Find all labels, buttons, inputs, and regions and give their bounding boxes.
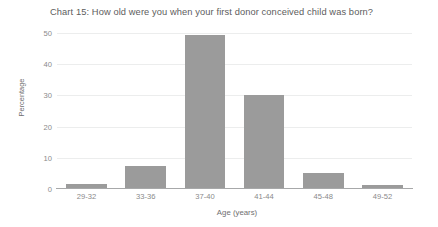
- gridline: [57, 33, 412, 34]
- page-title: Chart 15: How old were you when your fir…: [50, 7, 410, 17]
- bar: [303, 173, 344, 189]
- x-axis-tick: 37-40: [175, 192, 234, 201]
- y-axis-title: Percentage: [17, 68, 26, 128]
- bar: [244, 95, 285, 189]
- gridline: [57, 158, 412, 159]
- y-axis-tick-labels: 01020304050: [30, 0, 52, 227]
- x-axis-tick: 45-48: [294, 192, 353, 201]
- y-axis-tick: 30: [44, 91, 52, 100]
- gridline: [57, 127, 412, 128]
- gridline: [57, 95, 412, 96]
- y-axis-tick: 40: [44, 60, 52, 69]
- x-axis-tick: 33-36: [116, 192, 175, 201]
- x-axis-tick: 29-32: [57, 192, 116, 201]
- bar: [125, 166, 166, 189]
- x-axis-tick: 41-44: [235, 192, 294, 201]
- y-axis-tick: 50: [44, 29, 52, 38]
- x-axis-tick: 49-52: [353, 192, 412, 201]
- x-axis-line: [56, 188, 413, 189]
- chart-screenshot: Chart 15: How old were you when your fir…: [0, 0, 438, 227]
- y-axis-tick: 20: [44, 122, 52, 131]
- x-axis-title: Age (years): [0, 208, 438, 217]
- y-axis-tick: 0: [48, 185, 52, 194]
- y-axis-tick: 10: [44, 153, 52, 162]
- plot-area: [57, 33, 412, 189]
- bar: [185, 35, 226, 189]
- gridline: [57, 64, 412, 65]
